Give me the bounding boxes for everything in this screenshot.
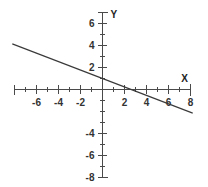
x-tick-label: -6 [32,97,41,108]
y-tick-label: -6 [86,150,95,161]
y-tick-label: -8 [86,172,95,183]
axes-group [15,13,191,178]
x-tick-label: 8 [188,97,194,108]
ticks-group [26,13,191,178]
x-tick-label: 4 [144,97,150,108]
x-tick-label: -4 [54,97,63,108]
x-axis-label: X [181,73,188,84]
y-tick-label: -4 [86,128,95,139]
x-tick-label: -2 [76,97,85,108]
x-tick-label: 2 [122,97,128,108]
y-axis-label: Y [111,9,118,20]
x-tick-label: 6 [166,97,172,108]
y-tick-label: 6 [89,18,95,29]
y-tick-label: 4 [89,40,95,51]
chart-canvas: -6-4-22468642-4-6-8 XY [0,0,208,187]
axis-names-group: XY [111,9,189,84]
tick-labels-group: -6-4-22468642-4-6-8 [32,18,194,183]
y-tick-label: 2 [89,62,95,73]
coordinate-plane-chart: -6-4-22468642-4-6-8 XY [0,0,208,187]
